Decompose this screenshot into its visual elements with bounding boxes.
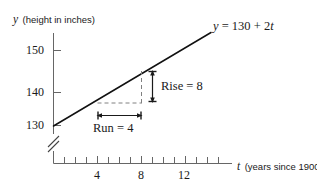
equation-var: t xyxy=(270,19,273,33)
y-axis-title-var: y xyxy=(13,13,18,25)
run-annotation-rhs: = 4 xyxy=(114,121,134,135)
rise-annotation-rhs: = 8 xyxy=(183,79,203,93)
graph-figure: y (height in inches) t (years since 1900… xyxy=(0,0,317,187)
equation-label: y = 130 + 2t xyxy=(213,20,274,33)
rise-annotation-lhs: Rise xyxy=(161,79,183,93)
run-annotation-lhs: Run xyxy=(93,121,114,135)
x-tick-label-4: 4 xyxy=(94,169,100,181)
y-tick-label-130: 130 xyxy=(26,119,44,131)
rise-annotation-label: Rise = 8 xyxy=(161,80,203,93)
x-tick-label-12: 12 xyxy=(178,169,190,181)
x-axis-title-desc: (years since 1900) xyxy=(245,161,317,172)
rise-arrow xyxy=(149,70,157,103)
y-tick-label-150: 150 xyxy=(26,44,44,56)
x-tick-label-8: 8 xyxy=(138,169,144,181)
x-axis-title: t (years since 1900) xyxy=(237,157,317,173)
y-axis-break-icon xyxy=(48,136,59,152)
y-axis-title-desc: (height in inches) xyxy=(23,14,95,25)
y-axis-title: y (height in inches) xyxy=(13,10,95,26)
y-tick-marks xyxy=(54,51,62,126)
x-tick-marks xyxy=(65,156,219,164)
run-annotation-label: Run = 4 xyxy=(93,122,133,135)
equation-rhs: = 130 + 2 xyxy=(219,19,271,33)
x-axis-title-var: t xyxy=(237,160,240,172)
y-tick-label-140: 140 xyxy=(26,86,44,98)
run-arrow xyxy=(97,112,143,120)
